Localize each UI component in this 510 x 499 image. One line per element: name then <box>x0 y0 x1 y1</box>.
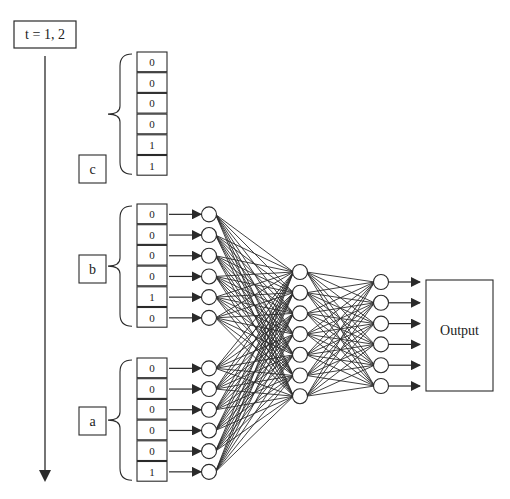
curly-brace-b <box>108 206 132 326</box>
hidden1-node <box>293 368 308 383</box>
value-cell-text: 0 <box>149 77 155 89</box>
input-node <box>202 248 217 263</box>
hidden2-node <box>374 275 389 290</box>
hidden2-node <box>374 316 389 331</box>
input-node <box>202 228 217 243</box>
output-label: Output <box>440 323 479 338</box>
hidden1-node <box>293 389 308 404</box>
hidden1-node <box>293 327 308 342</box>
connection <box>216 272 294 410</box>
curly-brace-c <box>108 54 132 174</box>
hidden2-node <box>374 337 389 352</box>
group-label-c: c <box>89 162 95 177</box>
curly-brace-a <box>108 360 132 480</box>
hidden2-node <box>374 379 389 394</box>
input-node <box>202 290 217 305</box>
value-cell-text: 0 <box>149 118 155 130</box>
value-cell-text: 0 <box>149 97 155 109</box>
value-cell-text: 0 <box>149 249 155 261</box>
value-cell-text: 1 <box>149 160 155 172</box>
value-cell-text: 1 <box>149 139 155 151</box>
diagram-svg: t = 1, 2c000011b000010a000001Output <box>0 0 510 499</box>
value-cell-text: 0 <box>149 362 155 374</box>
input-node <box>202 361 217 376</box>
hidden2-node <box>374 295 389 310</box>
group-label-a: a <box>89 414 96 429</box>
time-label: t = 1, 2 <box>25 27 65 42</box>
hidden1-node <box>293 265 308 280</box>
group-label-b: b <box>89 262 96 277</box>
value-cell-text: 0 <box>149 229 155 241</box>
input-node <box>202 269 217 284</box>
hidden1-node <box>293 347 308 362</box>
value-cell-text: 1 <box>149 291 155 303</box>
value-cell-text: 0 <box>149 208 155 220</box>
hidden2-node <box>374 358 389 373</box>
hidden1-node <box>293 306 308 321</box>
connection <box>307 282 375 293</box>
value-cell-text: 0 <box>149 445 155 457</box>
value-cell-text: 0 <box>149 383 155 395</box>
value-cell-text: 0 <box>149 403 155 415</box>
hidden1-node <box>293 285 308 300</box>
value-cell-text: 0 <box>149 56 155 68</box>
input-node <box>202 423 217 438</box>
value-cell-text: 1 <box>149 466 155 478</box>
input-node <box>202 207 217 222</box>
input-node <box>202 310 217 325</box>
connection <box>216 334 294 472</box>
time-arrow-head-icon <box>39 470 51 482</box>
value-cell-text: 0 <box>149 424 155 436</box>
value-cell-text: 0 <box>149 312 155 324</box>
value-cell-text: 0 <box>149 270 155 282</box>
neural-network-diagram: t = 1, 2c000011b000010a000001Output <box>0 0 510 499</box>
input-node <box>202 382 217 397</box>
input-node <box>202 402 217 417</box>
input-node <box>202 464 217 479</box>
input-node <box>202 444 217 459</box>
